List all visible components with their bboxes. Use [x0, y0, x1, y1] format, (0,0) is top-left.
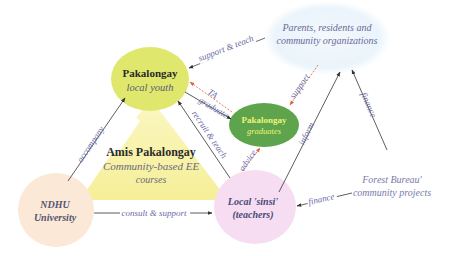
ndhu-line2: University — [34, 212, 77, 223]
label-support: support — [288, 72, 312, 101]
label-consult-support: consult & support — [121, 208, 187, 218]
label-accompany: accompany — [75, 125, 106, 165]
sinsi-line1: Local 'sinsi' — [227, 196, 279, 207]
course-line2: courses — [136, 174, 167, 185]
youth-subtitle: local youth — [127, 82, 174, 93]
label-inform: inform — [296, 120, 316, 146]
graduates-subtitle: graduates — [247, 126, 282, 136]
forest-line2: community projects — [353, 187, 431, 198]
parents-line1: Parents, residents and — [282, 22, 373, 33]
forest-line1: Forest Bureau' — [361, 174, 422, 185]
course-title: Amis Pakalongay — [106, 145, 196, 159]
course-line1: Community-based EE — [103, 160, 200, 172]
ee-network-diagram: Pakalongay local youth Parents, resident… — [0, 0, 451, 256]
label-advice: advice — [237, 148, 259, 173]
parents-line2: community organizations — [276, 35, 377, 46]
ndhu-line1: NDHU — [39, 199, 70, 210]
graduates-node — [229, 103, 299, 147]
sinsi-line2: (teachers) — [232, 209, 273, 221]
graduates-title: Pakalongay — [241, 115, 287, 125]
label-finance-parents: finance — [359, 91, 379, 119]
sinsi-node — [214, 170, 296, 244]
diagram-canvas: Pakalongay local youth Parents, resident… — [0, 0, 451, 256]
youth-title: Pakalongay — [122, 67, 178, 79]
ndhu-node — [18, 173, 94, 247]
